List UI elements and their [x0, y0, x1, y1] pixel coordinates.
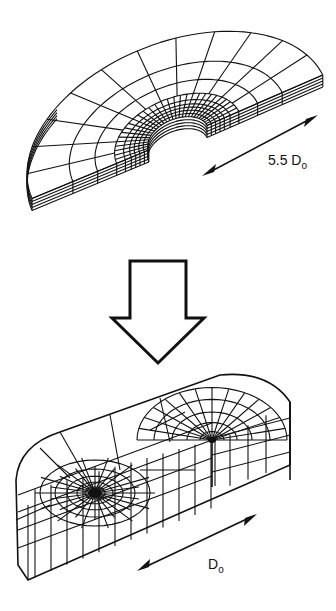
bottom-dimension-arrow	[137, 514, 257, 571]
diagram-canvas	[0, 0, 336, 611]
bottom-block-mesh	[16, 374, 290, 580]
bottom-dimension-label: Do	[208, 556, 224, 575]
top-annulus-mesh	[27, 31, 323, 210]
top-dimension-label: 5.5 Do	[268, 152, 307, 171]
transition-down-arrow-icon	[112, 261, 204, 363]
